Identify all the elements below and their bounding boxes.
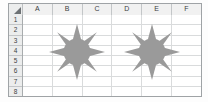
row-header-5[interactable]: 5 (9, 56, 22, 66)
sun-shape-left[interactable] (49, 24, 105, 80)
column-header-a[interactable]: A (23, 4, 53, 15)
column-header-f[interactable]: F (172, 4, 201, 15)
column-header-e[interactable]: E (142, 4, 172, 15)
column-header-row: A B C D E F (9, 4, 201, 15)
row-header-3[interactable]: 3 (9, 36, 22, 46)
select-all-button[interactable] (9, 4, 23, 15)
row-header-1[interactable]: 1 (9, 15, 22, 25)
column-header-c[interactable]: C (83, 4, 113, 15)
sun-shape-right[interactable] (124, 24, 180, 80)
row-header-7[interactable]: 7 (9, 77, 22, 87)
row-header-column: 1 2 3 4 5 6 7 8 (9, 15, 23, 96)
row-header-4[interactable]: 4 (9, 46, 22, 56)
sun-icon (124, 24, 180, 80)
column-header-d[interactable]: D (112, 4, 142, 15)
spreadsheet-screenshot: A B C D E F 1 2 3 4 5 6 7 8 (0, 0, 208, 102)
row-header-2[interactable]: 2 (9, 25, 22, 35)
row-header-6[interactable]: 6 (9, 66, 22, 76)
select-all-triangle-icon (14, 7, 21, 14)
sun-icon (49, 24, 105, 80)
row-header-8[interactable]: 8 (9, 87, 22, 96)
column-header-b[interactable]: B (53, 4, 83, 15)
